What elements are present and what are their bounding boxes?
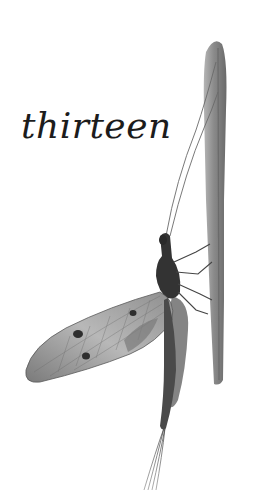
chapter-title: thirteen <box>21 108 172 144</box>
mayfly-forewing <box>26 292 173 382</box>
mayfly-tail <box>144 428 165 490</box>
mayfly-illustration <box>0 0 257 490</box>
